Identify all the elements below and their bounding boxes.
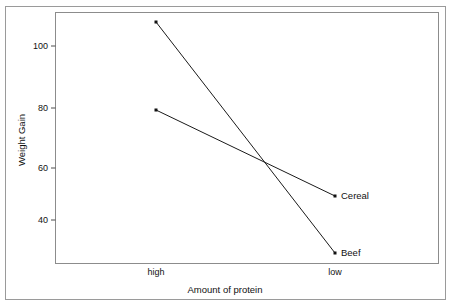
ytick-label-100: 100 bbox=[22, 41, 48, 51]
xtick-label-high: high bbox=[126, 267, 186, 277]
data-point-beef-high bbox=[155, 21, 158, 24]
data-point-beef-low bbox=[334, 252, 337, 255]
ytick-label-40: 40 bbox=[22, 215, 48, 225]
y-axis-title: Weight Gain bbox=[16, 114, 27, 166]
series-label-beef: Beef bbox=[341, 247, 361, 258]
data-point-cereal-low bbox=[334, 195, 337, 198]
y-axis-title-container: Weight Gain bbox=[14, 100, 28, 180]
plot-canvas bbox=[0, 0, 450, 307]
series-label-cereal: Cereal bbox=[341, 190, 369, 201]
x-axis-title: Amount of protein bbox=[0, 284, 450, 295]
interaction-plot-figure: 100 80 60 40 high low Cereal Beef Weight… bbox=[0, 0, 450, 307]
series-line-beef bbox=[156, 22, 335, 253]
data-point-cereal-high bbox=[155, 109, 158, 112]
xtick-label-low: low bbox=[305, 267, 365, 277]
plot-frame bbox=[56, 13, 439, 264]
series-line-cereal bbox=[156, 110, 335, 196]
